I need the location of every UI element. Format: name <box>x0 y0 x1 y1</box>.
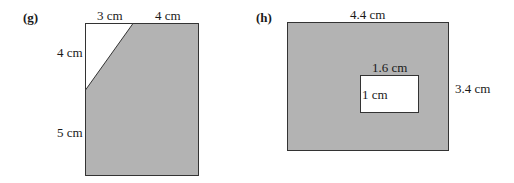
figure-h-outer-height-dimension: 3.4 cm <box>455 82 490 95</box>
figure-h-inner-height-dimension: 1 cm <box>362 88 388 101</box>
figure-g-top-left-dimension: 3 cm <box>97 9 123 22</box>
figure-h-label: (h) <box>256 11 272 24</box>
figure-g-top-right-dimension: 4 cm <box>155 9 181 22</box>
figure-h-inner-width-dimension: 1.6 cm <box>372 61 407 74</box>
diagram-canvas <box>0 0 514 183</box>
figure-g-label: (g) <box>23 11 38 24</box>
figure-h-outer-width-dimension: 4.4 cm <box>350 8 385 21</box>
figure-g-left-upper-dimension: 4 cm <box>57 46 83 59</box>
figure-g-left-lower-dimension: 5 cm <box>57 126 83 139</box>
